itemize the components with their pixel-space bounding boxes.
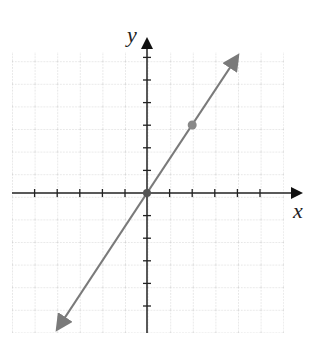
y-axis-label: y (127, 22, 137, 48)
coordinate-plane (0, 0, 321, 360)
origin-point (143, 189, 151, 197)
point-2-3 (188, 121, 197, 130)
x-axis-label: x (293, 198, 303, 224)
